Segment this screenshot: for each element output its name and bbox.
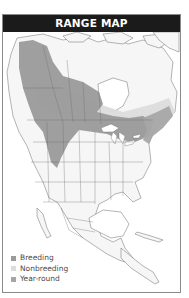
range-map-card: RANGE MAP [2,14,181,293]
year-round-swatch-icon [11,277,16,282]
legend-label: Breeding [20,253,54,264]
map-legend: Breeding Nonbreeding Year-round [11,253,68,285]
legend-item-year-round: Year-round [11,274,68,285]
legend-label: Year-round [20,274,60,285]
legend-label: Nonbreeding [20,264,68,275]
legend-item-nonbreeding: Nonbreeding [11,264,68,275]
nonbreeding-swatch-icon [11,266,16,271]
legend-item-breeding: Breeding [11,253,68,264]
breeding-swatch-icon [11,256,16,261]
range-map-title: RANGE MAP [3,15,180,32]
